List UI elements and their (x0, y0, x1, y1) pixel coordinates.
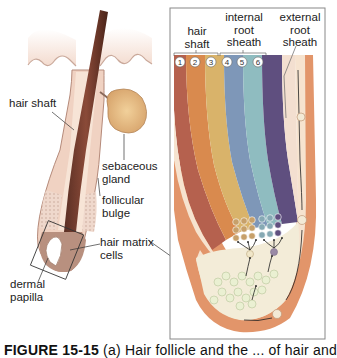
label-sebaceous-gland: sebaceous gland (102, 160, 158, 185)
svg-text:6: 6 (256, 58, 261, 67)
svg-text:5: 5 (240, 58, 245, 67)
svg-text:4: 4 (225, 58, 230, 67)
follicle-cross-section: 1 2 3 4 5 6 (174, 46, 316, 332)
svg-text:2: 2 (193, 58, 198, 67)
caption-text: (a) Hair follicle and the ... of hair an… (103, 342, 337, 358)
header-external-root-sheath: external root sheath (276, 11, 324, 49)
svg-text:3: 3 (209, 58, 214, 67)
label-follicular-bulge: follicular bulge (102, 194, 144, 219)
header-internal-root-sheath: internal root sheath (222, 11, 266, 49)
label-hair-matrix-cells: hair matrix cells (100, 236, 154, 261)
header-hair-shaft: hair shaft (180, 25, 214, 50)
figure-number: FIGURE 15-15 (4, 342, 99, 358)
svg-text:1: 1 (178, 58, 183, 67)
label-hair-shaft: hair shaft (9, 97, 56, 110)
skin-surface (28, 28, 152, 66)
label-dermal-papilla: dermal papilla (10, 278, 45, 303)
sebaceous-gland (100, 89, 147, 133)
figure-caption: FIGURE 15-15 (a) Hair follicle and the .… (4, 342, 337, 358)
